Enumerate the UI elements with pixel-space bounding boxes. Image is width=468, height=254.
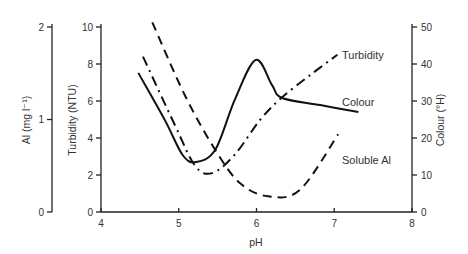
right-tick-label: 0 [421,207,427,218]
right-tick-label: 10 [421,170,433,181]
left_inner-tick-label: 8 [87,59,93,70]
left_inner-tick-label: 2 [87,170,93,181]
x-tick-label: 5 [176,218,182,229]
left_inner-tick-label: 4 [87,133,93,144]
right-tick-label: 30 [421,96,433,107]
right-tick-label: 50 [421,22,433,33]
left_inner-tick-label: 6 [87,96,93,107]
x-tick-label: 7 [331,218,337,229]
x-tick-label: 4 [98,218,104,229]
left_outer-tick-label: 2 [38,22,44,33]
x-axis-title: pH [249,236,262,248]
colour-axis-title: Colour (°H) [434,94,446,147]
series-turbidity-line [143,55,337,174]
curves [138,22,358,197]
x-tick-label: 6 [254,218,260,229]
left_outer-tick-label: 1 [38,114,44,125]
al-axis-title: Al (mg l⁻¹) [20,96,32,145]
turbidity-axis-title: Turbidity (NTU) [66,84,78,155]
series-label-turbidity: Turbidity [342,49,384,61]
series-colour-line [138,60,358,163]
x-tick-label: 8 [409,218,415,229]
right-tick-label: 20 [421,133,433,144]
right-tick-label: 40 [421,59,433,70]
series-label-soluble-al: Soluble Al [342,154,391,166]
left_inner-tick-label: 10 [82,22,94,33]
left_inner-tick-label: 0 [87,207,93,218]
series-label-colour: Colour [342,96,375,108]
series-soluble-al-line [152,22,338,197]
chart: 45678012024681001020304050 pH Al (mg l⁻¹… [0,0,468,254]
left_outer-tick-label: 0 [38,207,44,218]
